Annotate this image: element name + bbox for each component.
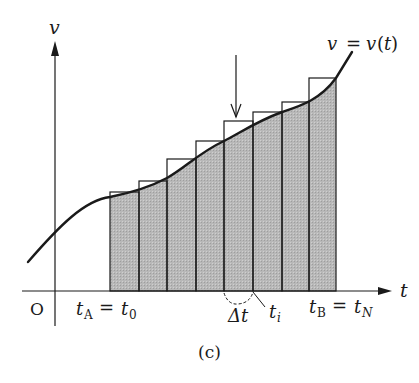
riemann-sum-diagram: v t O v = v ( t ) t A = t 0 Δt t i t B =… xyxy=(0,0,419,383)
t-axis-arrow-icon xyxy=(378,287,392,295)
svg-text:=: = xyxy=(332,295,347,316)
pointer-arrow-icon xyxy=(231,55,241,117)
svg-text:t: t xyxy=(76,298,84,319)
svg-text:=: = xyxy=(346,33,361,54)
svg-text:i: i xyxy=(277,311,281,325)
svg-text:=: = xyxy=(99,297,114,318)
figure-caption: (c) xyxy=(198,342,221,362)
delta-t-brace xyxy=(224,292,253,304)
origin-label: O xyxy=(30,299,44,319)
svg-text:N: N xyxy=(361,306,373,320)
svg-text:0: 0 xyxy=(129,308,137,322)
t-i-leader xyxy=(253,292,265,307)
delta-t-label: Δt xyxy=(227,305,249,326)
shaded-area xyxy=(110,40,336,291)
svg-text:B: B xyxy=(317,306,326,320)
svg-text:t: t xyxy=(269,301,277,322)
svg-text:v: v xyxy=(366,33,376,54)
svg-text:A: A xyxy=(83,308,93,322)
svg-text:v: v xyxy=(327,33,337,54)
svg-text:t: t xyxy=(354,296,362,317)
t-b-label: t B = t N xyxy=(309,295,373,320)
t-axis-label: t xyxy=(400,279,408,301)
curve-label: v = v ( t ) xyxy=(327,33,398,54)
v-axis-label: v xyxy=(49,16,60,38)
t-i-label: t i xyxy=(269,301,281,325)
svg-text:): ) xyxy=(391,33,398,54)
t-a-label: t A = t 0 xyxy=(76,297,137,322)
svg-text:t: t xyxy=(309,296,317,317)
v-axis-arrow-icon xyxy=(51,41,59,56)
svg-text:t: t xyxy=(121,298,129,319)
svg-text:(: ( xyxy=(377,33,384,54)
